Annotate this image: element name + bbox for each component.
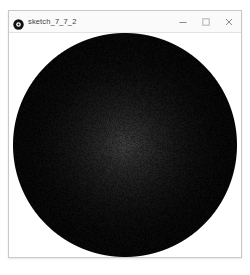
minimize-button[interactable] — [171, 12, 194, 32]
window-controls — [171, 11, 240, 32]
close-icon — [224, 17, 234, 27]
close-button[interactable] — [217, 12, 240, 32]
maximize-icon — [201, 17, 211, 27]
window-title: sketch_7_7_2 — [28, 17, 171, 26]
sketch-canvas[interactable] — [9, 33, 241, 257]
noise-circle-render — [9, 33, 241, 257]
processing-logo-icon — [13, 16, 24, 27]
title-bar[interactable]: sketch_7_7_2 — [9, 11, 241, 33]
sketch-window: sketch_7_7_2 — [8, 10, 242, 258]
maximize-button[interactable] — [194, 12, 217, 32]
minimize-icon — [178, 17, 188, 27]
